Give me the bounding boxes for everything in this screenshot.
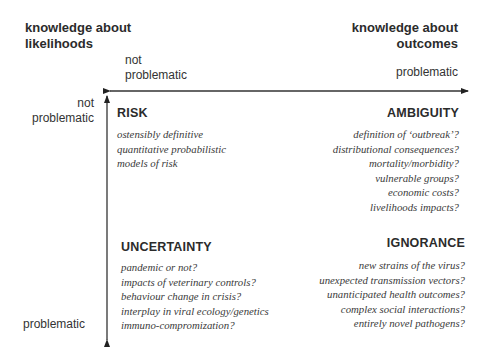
likelihoods-title-line1: knowledge about <box>25 20 131 36</box>
quadrant-ambiguity: AMBIGUITY definition of ‘outbreak’? dist… <box>270 106 459 215</box>
outcomes-not-problematic-label: not problematic <box>125 53 187 83</box>
ignorance-title: IGNORANCE <box>290 236 465 250</box>
quadrant-risk: RISK ostensibly definitive quantitative … <box>117 106 226 171</box>
likelihoods-title-line2: likelihoods <box>25 36 131 52</box>
list-item: unanticipated health outcomes? <box>290 287 465 302</box>
quadrant-ignorance: IGNORANCE new strains of the virus? unex… <box>290 236 465 331</box>
likelihoods-problematic-label: problematic <box>23 317 85 332</box>
label-not: not <box>10 96 94 111</box>
list-item: interplay in viral ecology/genetics <box>121 304 269 319</box>
list-item: quantitative probabilistic <box>117 142 226 157</box>
list-item: entirely novel pathogens? <box>290 316 465 331</box>
list-item: impacts of veterinary controls? <box>121 275 269 290</box>
list-item: vulnerable groups? <box>270 171 459 186</box>
list-item: immuno-compromization? <box>121 318 269 333</box>
list-item: mortality/morbidity? <box>270 156 459 171</box>
ambiguity-items: definition of ‘outbreak’? distributional… <box>270 127 459 215</box>
list-item: unexpected transmission vectors? <box>290 273 465 288</box>
outcomes-problematic-label: problematic <box>340 65 458 80</box>
label-problematic: problematic <box>125 68 187 83</box>
list-item: behaviour change in crisis? <box>121 289 269 304</box>
list-item: distributional consequences? <box>270 142 459 157</box>
list-item: ostensibly definitive <box>117 127 226 142</box>
list-item: pandemic or not? <box>121 260 269 275</box>
label-problematic: problematic <box>10 111 94 126</box>
list-item: new strains of the virus? <box>290 258 465 273</box>
ambiguity-title: AMBIGUITY <box>270 106 459 120</box>
list-item: economic costs? <box>270 185 459 200</box>
list-item: models of risk <box>117 156 226 171</box>
list-item: complex social interactions? <box>290 302 465 317</box>
risk-title: RISK <box>117 106 226 120</box>
likelihoods-axis-title: knowledge about likelihoods <box>25 20 131 52</box>
outcomes-title-line2: outcomes <box>300 36 458 52</box>
outcomes-title-line1: knowledge about <box>300 20 458 36</box>
uncertainty-items: pandemic or not? impacts of veterinary c… <box>121 260 269 333</box>
label-not: not <box>125 53 187 68</box>
uncertainty-title: UNCERTAINTY <box>121 240 269 254</box>
list-item: definition of ‘outbreak’? <box>270 127 459 142</box>
ignorance-items: new strains of the virus? unexpected tra… <box>290 258 465 331</box>
outcomes-axis-title: knowledge about outcomes <box>300 20 458 52</box>
list-item: livelihoods impacts? <box>270 200 459 215</box>
risk-items: ostensibly definitive quantitative proba… <box>117 127 226 171</box>
likelihoods-not-problematic-label: not problematic <box>10 96 94 126</box>
quadrant-uncertainty: UNCERTAINTY pandemic or not? impacts of … <box>121 240 269 333</box>
